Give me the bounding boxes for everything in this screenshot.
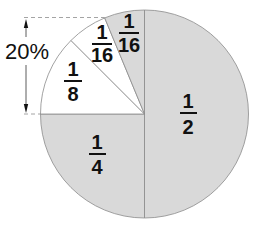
dimension-label: 20% — [5, 39, 49, 64]
label-sixteenth-white-numerator: 1 — [96, 21, 107, 43]
arrow-down-icon — [24, 104, 28, 113]
label-sixteenth-white-denominator: 16 — [91, 44, 113, 66]
label-eighth-numerator: 1 — [67, 58, 78, 80]
label-quarter-numerator: 1 — [91, 131, 102, 153]
label-sixteenth-gray-denominator: 16 — [118, 34, 140, 56]
label-quarter-denominator: 4 — [91, 156, 103, 178]
label-sixteenth-gray-numerator: 1 — [123, 10, 134, 32]
label-half-denominator: 2 — [182, 116, 193, 138]
arrow-up-icon — [24, 19, 28, 28]
pie-chart: 20% 1 2 1 4 1 8 1 16 1 16 — [0, 0, 254, 228]
label-eighth-denominator: 8 — [67, 83, 78, 105]
label-half-numerator: 1 — [182, 90, 193, 112]
